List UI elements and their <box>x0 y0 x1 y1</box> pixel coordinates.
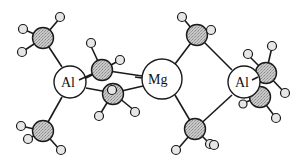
hydrogen-atom <box>272 114 281 123</box>
hydrogen-atom <box>131 108 140 117</box>
hydrogen-atom <box>268 42 277 51</box>
carbon-atom <box>92 60 113 81</box>
carbon-atom <box>185 119 206 140</box>
hydrogen-atom <box>207 26 216 35</box>
hydrogen-atom <box>24 135 33 144</box>
hydrogen-atom <box>17 122 26 131</box>
carbon-atom <box>187 25 208 46</box>
hydrogen-atom <box>57 146 66 155</box>
label-mg: Mg <box>148 72 167 87</box>
hydrogen-atom <box>19 25 28 34</box>
label-al-left: Al <box>61 75 75 90</box>
hydrogen-atom <box>87 39 96 48</box>
hydrogen-atom <box>172 146 181 155</box>
hydrogen-atom <box>95 112 104 121</box>
molecule-diagram: Al Mg Al <box>0 0 304 162</box>
hydrogen-atom <box>18 48 27 57</box>
hydrogen-atom <box>108 86 117 95</box>
hydrogen-atom <box>116 56 125 65</box>
hydrogen-atom <box>239 100 247 108</box>
hydrogen-atom <box>281 89 290 98</box>
label-al-right: Al <box>235 75 249 90</box>
hydrogen-atom <box>244 50 253 59</box>
carbon-atom <box>33 121 54 142</box>
hydrogen-atom <box>56 13 65 22</box>
hydrogen-atom <box>178 13 187 22</box>
hydrogen-atom <box>210 141 219 150</box>
carbon-atom <box>33 28 54 49</box>
